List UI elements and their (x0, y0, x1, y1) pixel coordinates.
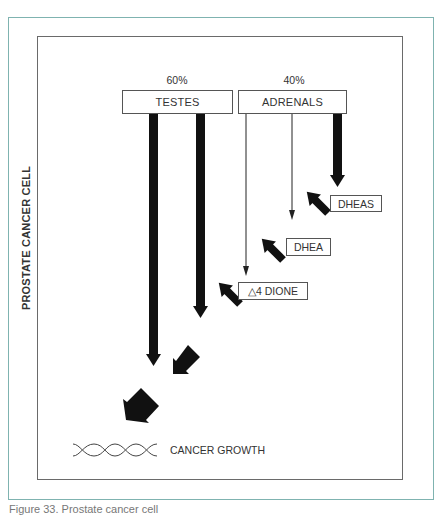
dhea-label: DHEA (294, 241, 323, 253)
dheas-to-dhea-arrow-icon (301, 186, 334, 219)
dheas-label: DHEAS (338, 198, 374, 210)
adrenals-to-dhea-thin-arrow-icon (289, 114, 295, 220)
adrenals-to-dione-thin-arrow-icon (243, 114, 249, 276)
combined-arrow-large-icon (123, 388, 159, 423)
cancer-growth-label: CANCER GROWTH (170, 444, 265, 456)
testes-arrow-right-icon (193, 114, 208, 318)
dhea-box: DHEA (286, 238, 331, 256)
adrenals-to-dheas-arrow-icon (330, 114, 345, 187)
dhea-to-dione-arrow-icon (256, 233, 289, 266)
combined-arrow-medium-icon (173, 345, 200, 374)
delta4-dione-label: △4 DIONE (248, 285, 298, 297)
delta4-dione-box: △4 DIONE (238, 282, 308, 300)
dheas-box: DHEAS (330, 195, 382, 212)
testes-arrow-left-icon (146, 114, 161, 366)
dna-helix-icon (73, 444, 157, 456)
figure-caption: Figure 33. Prostate cancer cell (9, 503, 158, 515)
